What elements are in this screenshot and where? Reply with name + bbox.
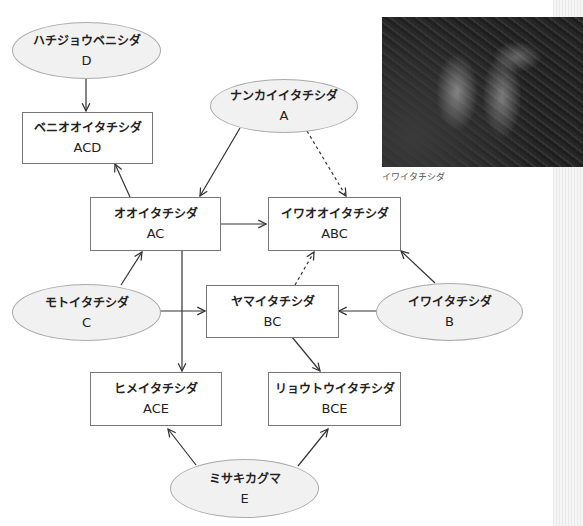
node-code: ABC: [321, 224, 348, 244]
node-ABC-box: イワオオイタチシダ ABC: [268, 197, 401, 251]
edge-A-ABC: [307, 131, 346, 196]
node-name: ヤマイタチシダ: [231, 292, 315, 312]
node-code: A: [280, 106, 289, 126]
node-D-ellipse: ハチジョウベニシダ D: [12, 22, 161, 79]
node-B-ellipse: イワイタチシダ B: [376, 283, 523, 341]
edge-E-BCE: [298, 429, 328, 466]
node-code: B: [445, 312, 454, 332]
edge-B-ABC: [401, 251, 435, 283]
node-name: オオイタチシダ: [114, 204, 198, 224]
node-BC-box: ヤマイタチシダ BC: [206, 285, 339, 338]
node-BCE-box: リョウトウイタチシダ BCE: [268, 372, 401, 426]
node-code: D: [81, 51, 91, 71]
node-AC-box: オオイタチシダ AC: [90, 197, 221, 251]
node-code: BC: [264, 312, 282, 332]
node-name: ハチジョウベニシダ: [33, 31, 141, 51]
node-code: BCE: [322, 399, 348, 419]
node-name: リョウトウイタチシダ: [275, 379, 395, 399]
edge-E-ACE: [168, 429, 196, 465]
node-code: ACD: [74, 138, 102, 158]
node-ACD-box: ベニオオイタチシダ ACD: [22, 112, 153, 164]
edge-BC-ABC: [295, 252, 314, 285]
node-name: ベニオオイタチシダ: [34, 118, 142, 138]
edge-A-AC: [200, 128, 240, 196]
node-code: AC: [147, 224, 165, 244]
node-C-ellipse: モトイタチシダ C: [12, 284, 161, 341]
node-name: ヒメイタチシダ: [114, 379, 198, 399]
node-name: ナンカイイタチシダ: [230, 86, 338, 106]
node-code: C: [82, 313, 91, 333]
edge-BC-BCE: [292, 337, 320, 371]
node-name: ミサキカグマ: [209, 469, 281, 489]
node-code: E: [240, 489, 248, 509]
node-name: モトイタチシダ: [45, 293, 129, 313]
node-A-ellipse: ナンカイイタチシダ A: [210, 79, 358, 133]
edge-C-AC: [121, 252, 142, 285]
edge-AC-ACD: [115, 164, 130, 197]
node-name: イワイタチシダ: [408, 292, 492, 312]
node-ACE-box: ヒメイタチシダ ACE: [90, 372, 222, 426]
node-name: イワオオイタチシダ: [281, 204, 389, 224]
node-code: ACE: [143, 399, 169, 419]
node-E-ellipse: ミサキカグマ E: [170, 459, 319, 518]
